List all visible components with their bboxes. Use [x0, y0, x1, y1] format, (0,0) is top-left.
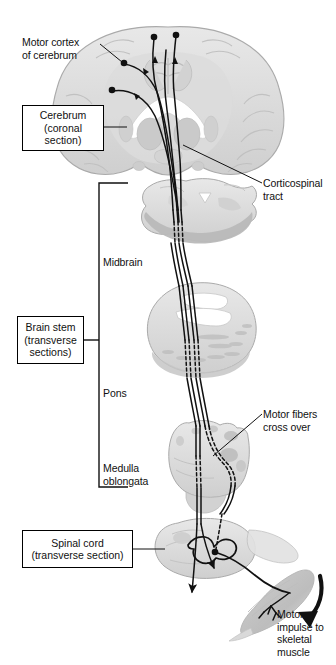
label-motor-impulse-to-skeletal-muscle: Motor impulse to skeletal muscle [277, 608, 324, 658]
label-midbrain: Midbrain [103, 256, 142, 269]
boxed-label-cerebrum: Cerebrum (coronal section) [22, 105, 104, 151]
pons-transverse-section [147, 283, 256, 378]
label-medulla-oblongata: Medulla oblongata [103, 462, 148, 487]
spinal-cord-transverse-section [155, 518, 298, 578]
medulla-oblongata-transverse-section [169, 421, 250, 514]
brain-stem-bracket [84, 183, 128, 487]
label-pons: Pons [103, 387, 127, 400]
label-motor-cortex: Motor cortex of cerebrum [22, 36, 79, 61]
label-motor-fibers-cross-over: Motor fibers cross over [263, 408, 317, 433]
boxed-label-brain-stem: Brain stem (transverse sections) [17, 316, 84, 364]
diagram-canvas: Motor cortex of cerebrum Corticospinal t… [0, 0, 336, 665]
label-corticospinal-tract: Corticospinal tract [263, 177, 322, 202]
midbrain-transverse-section [142, 179, 257, 244]
boxed-label-spinal-cord: Spinal cord (transverse section) [22, 530, 133, 568]
